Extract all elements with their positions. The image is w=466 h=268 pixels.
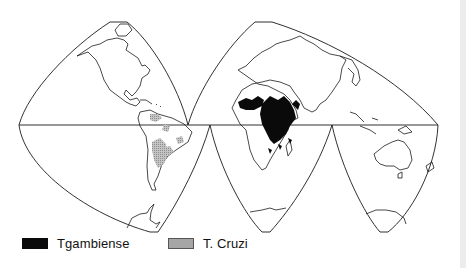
legend-label: T. Cruzi: [203, 236, 248, 251]
world-map: [0, 0, 466, 268]
legend-item-tcruzi: T. Cruzi: [168, 236, 248, 251]
map-lobes-outline: [19, 22, 438, 232]
tcruzi-distribution: [150, 114, 184, 168]
coastlines: [77, 24, 434, 228]
legend-item-tgambiense: Tgambiense: [22, 236, 130, 251]
legend-swatch-black: [22, 238, 48, 249]
legend-swatch-stippled: [168, 238, 194, 249]
page-edge-strip: [460, 0, 466, 268]
legend-label: Tgambiense: [57, 236, 130, 251]
